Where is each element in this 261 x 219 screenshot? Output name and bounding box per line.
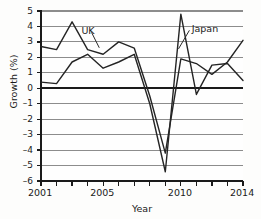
x-tick-label: 2001 [28,188,52,198]
x-axis-label: Year [41,203,243,214]
y-tick-label: –2 [7,115,33,124]
y-tick-label: 5 [7,7,33,16]
y-tick-label: –6 [7,177,33,186]
y-tick-label: 2 [7,53,33,62]
y-tick-label: 0 [7,84,33,93]
chart-container: Growth (%) Year 543210–1–2–3–4–5–6 20012… [0,0,261,219]
x-tick-label: 2010 [168,188,192,198]
y-tick-label: –1 [7,99,33,108]
y-tick-label: –4 [7,146,33,155]
y-tick-label: –3 [7,130,33,139]
y-tick-label: –5 [7,161,33,170]
series-label-uk: UK [81,26,94,36]
x-tick-label: 2005 [90,188,114,198]
y-tick-label: 3 [7,37,33,46]
y-tick-label: 4 [7,22,33,31]
series-line-japan [41,14,243,172]
y-tick-label: 1 [7,68,33,77]
x-tick-label: 2014 [230,188,254,198]
series-label-japan: Japan [192,24,219,34]
